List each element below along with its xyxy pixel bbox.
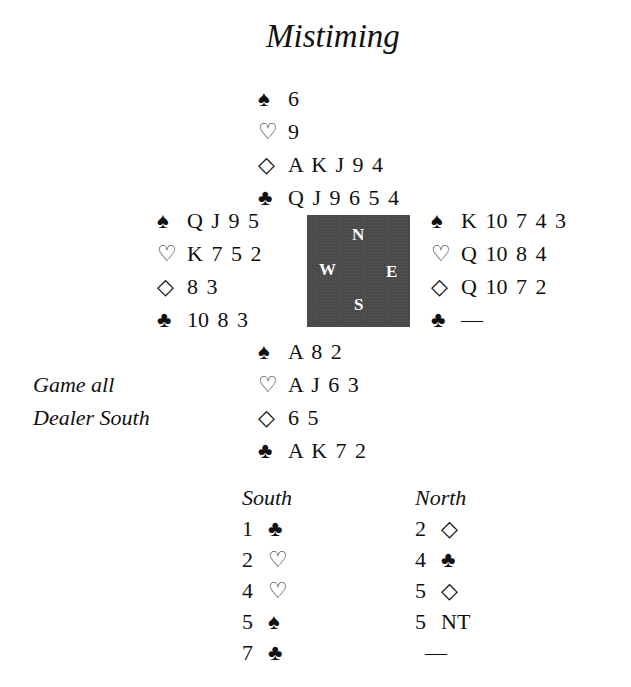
diamond-icon: ◇ — [441, 513, 458, 544]
north-hearts: ♡ 9 — [258, 115, 399, 148]
compass-north: N — [352, 225, 364, 245]
heart-icon: ♡ — [258, 115, 288, 148]
compass-box: N W E S — [307, 215, 410, 327]
east-spades: ♠ K 10 7 4 3 — [431, 204, 566, 237]
diamond-icon: ◇ — [258, 148, 288, 181]
heart-icon: ♡ — [431, 237, 461, 270]
west-hearts: ♡ K 7 5 2 — [157, 237, 261, 270]
auction-south-header: South — [242, 482, 292, 513]
club-icon: ♣ — [441, 544, 455, 575]
compass-east: E — [386, 262, 397, 282]
club-icon: ♣ — [268, 637, 282, 668]
club-icon: ♣ — [258, 434, 288, 467]
club-icon: ♣ — [431, 303, 461, 336]
spade-icon: ♠ — [157, 204, 187, 237]
east-clubs: ♣ — — [431, 303, 566, 336]
auction-bid: 5◇ — [415, 575, 470, 606]
heart-icon: ♡ — [268, 544, 288, 575]
west-hand: ♠ Q J 9 5 ♡ K 7 5 2 ◇ 8 3 ♣ 10 8 3 — [157, 204, 261, 336]
north-spades: ♠ 6 — [258, 82, 399, 115]
auction-bid: 1♣ — [242, 513, 292, 544]
south-clubs: ♣ A K 7 2 — [258, 434, 366, 467]
spade-icon: ♠ — [431, 204, 461, 237]
auction-north-column: North 2◇ 4♣ 5◇ 5NT — — [415, 482, 470, 668]
club-icon: ♣ — [268, 513, 282, 544]
auction-bid: — — [415, 637, 470, 668]
auction-bid: 4♣ — [415, 544, 470, 575]
compass-west: W — [319, 260, 336, 280]
spade-icon: ♠ — [258, 335, 288, 368]
auction-south-column: South 1♣ 2♡ 4♡ 5♠ 7♣ — [242, 482, 292, 668]
compass-south: S — [354, 295, 363, 315]
deal-info: Game all Dealer South — [33, 368, 150, 434]
auction-north-header: North — [415, 482, 470, 513]
north-hand: ♠ 6 ♡ 9 ◇ A K J 9 4 ♣ Q J 9 6 5 4 — [258, 82, 399, 214]
auction-bid: 4♡ — [242, 575, 292, 606]
pass-dash: — — [425, 637, 447, 668]
spade-icon: ♠ — [268, 606, 280, 637]
auction-bid: 5♠ — [242, 606, 292, 637]
east-hand: ♠ K 10 7 4 3 ♡ Q 10 8 4 ◇ Q 10 7 2 ♣ — — [431, 204, 566, 336]
vulnerability-label: Game all — [33, 368, 150, 401]
no-trump-label: NT — [441, 606, 470, 637]
east-hearts: ♡ Q 10 8 4 — [431, 237, 566, 270]
north-clubs: ♣ Q J 9 6 5 4 — [258, 181, 399, 214]
diamond-icon: ◇ — [157, 270, 187, 303]
club-icon: ♣ — [157, 303, 187, 336]
east-diamonds: ◇ Q 10 7 2 — [431, 270, 566, 303]
heart-icon: ♡ — [268, 575, 288, 606]
west-clubs: ♣ 10 8 3 — [157, 303, 261, 336]
auction-bid: 2◇ — [415, 513, 470, 544]
heart-icon: ♡ — [258, 368, 288, 401]
north-diamonds: ◇ A K J 9 4 — [258, 148, 399, 181]
heart-icon: ♡ — [157, 237, 187, 270]
dealer-label: Dealer South — [33, 401, 150, 434]
deal-title: Mistiming — [266, 18, 400, 55]
diamond-icon: ◇ — [441, 575, 458, 606]
auction-bid: 2♡ — [242, 544, 292, 575]
diamond-icon: ◇ — [258, 401, 288, 434]
west-diamonds: ◇ 8 3 — [157, 270, 261, 303]
auction-bid: 5NT — [415, 606, 470, 637]
club-icon: ♣ — [258, 181, 288, 214]
south-hand: ♠ A 8 2 ♡ A J 6 3 ◇ 6 5 ♣ A K 7 2 — [258, 335, 366, 467]
south-diamonds: ◇ 6 5 — [258, 401, 366, 434]
auction-bid: 7♣ — [242, 637, 292, 668]
south-hearts: ♡ A J 6 3 — [258, 368, 366, 401]
diamond-icon: ◇ — [431, 270, 461, 303]
spade-icon: ♠ — [258, 82, 288, 115]
south-spades: ♠ A 8 2 — [258, 335, 366, 368]
west-spades: ♠ Q J 9 5 — [157, 204, 261, 237]
